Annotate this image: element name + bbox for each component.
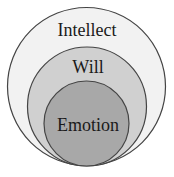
intellect-label: Intellect xyxy=(58,20,117,40)
will-label: Will xyxy=(72,57,103,77)
emotion-label: Emotion xyxy=(57,115,119,135)
nested-circles-diagram: Intellect Will Emotion xyxy=(0,0,174,177)
diagram-canvas: Intellect Will Emotion xyxy=(0,0,174,177)
